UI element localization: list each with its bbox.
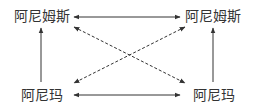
- node-top-right: 阿尼姆斯: [185, 8, 241, 24]
- node-bottom-right: 阿尼玛: [193, 87, 235, 103]
- node-bottom-left: 阿尼玛: [21, 87, 63, 103]
- node-top-left: 阿尼姆斯: [14, 8, 70, 24]
